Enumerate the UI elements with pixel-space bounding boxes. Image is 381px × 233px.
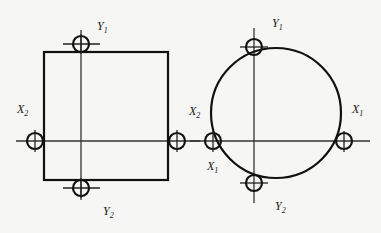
label-y2-square: Y2	[103, 204, 114, 220]
square-outline	[44, 52, 168, 180]
label-y1-square: Y1	[97, 19, 108, 35]
circle-figure: Y1 Y2 X2 X1 X1	[188, 16, 370, 215]
circle-outline	[211, 48, 341, 178]
label-x1-left-circle: X1	[206, 159, 218, 175]
label-x1-right-circle: X1	[351, 102, 363, 118]
square-figure: Y1 Y2 X2	[16, 19, 200, 220]
label-x2-left-square: X2	[16, 102, 28, 118]
diagram-canvas: Y1 Y2 X2 Y1 Y2 X2 X1 X1	[0, 0, 381, 233]
label-y1-circle: Y1	[272, 16, 283, 32]
label-y2-circle: Y2	[275, 199, 286, 215]
label-x2-circle: X2	[188, 104, 200, 120]
